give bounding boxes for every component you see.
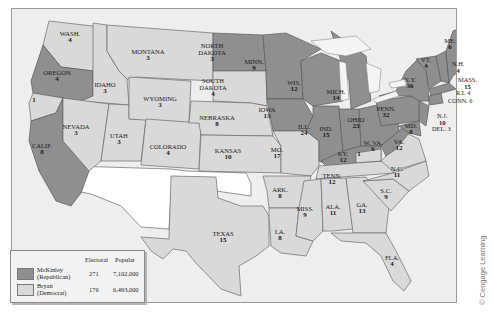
label-nj: N.J.10 — [437, 112, 447, 126]
label-penn: PENN.32 — [377, 105, 396, 119]
legend-popular-value: 6,493,000 — [113, 286, 139, 293]
copyright-credit: © Cengage Learning — [478, 236, 487, 305]
legend-row-bryan: Bryan(Democrat) 176 6,493,000 — [17, 283, 142, 296]
legend-candidate: McKinley(Republican) — [37, 267, 70, 280]
label-wyoming: WYOMING3 — [143, 95, 176, 109]
legend-electoral-value: 271 — [89, 270, 99, 277]
label-ohio: OHIO23 — [348, 116, 364, 130]
label-ri: R.I. 4 — [456, 89, 470, 96]
label-colorado: COLORADO4 — [150, 143, 187, 157]
label-wash: WASH.4 — [60, 30, 80, 44]
label-north-dakota: NORTHDAKOTA3 — [198, 42, 225, 63]
label-nc: N.C.11 — [391, 165, 403, 179]
label-ala: ALA.11 — [325, 203, 340, 217]
label-calif: CALIF.8 — [32, 142, 52, 156]
label-ind: IND.15 — [319, 125, 332, 139]
label-nebraska: NEBRASKA8 — [199, 114, 235, 128]
label-md: MD.8 — [405, 122, 417, 136]
legend-swatch-republican — [17, 268, 34, 280]
legend-header-electoral: Electoral — [85, 256, 108, 263]
label-wis: WIS.12 — [287, 79, 301, 93]
label-kansas: KANSAS10 — [215, 147, 241, 161]
label-mass: MASS.15 — [458, 76, 477, 90]
state-nj — [419, 101, 429, 126]
label-ky-split: 1 — [357, 151, 361, 158]
label-montana: MONTANA3 — [131, 48, 164, 62]
label-mo: MO.17 — [271, 146, 283, 160]
label-del: DEL. 3 — [432, 125, 451, 132]
legend: Electoral Popular McKinley(Republican) 2… — [10, 250, 145, 303]
legend-popular-value: 7,102,000 — [113, 270, 139, 277]
label-va: VA.12 — [394, 138, 404, 152]
label-oregon: OREGON4 — [43, 69, 70, 83]
legend-row-mckinley: McKinley(Republican) 271 7,102,000 — [17, 267, 142, 280]
label-vt: VT.4 — [421, 56, 431, 70]
label-wva: W. VA.6 — [363, 139, 382, 153]
label-calif-split: 1 — [32, 97, 36, 104]
label-ark: ARK.8 — [272, 186, 288, 200]
label-nh: N.H.4 — [452, 60, 464, 74]
label-la: LA.8 — [275, 228, 285, 242]
label-miss: MISS.9 — [296, 205, 313, 219]
label-fla: FLA.4 — [385, 254, 399, 268]
label-me: ME.6 — [444, 37, 456, 51]
label-ill: ILL.24 — [298, 123, 310, 137]
label-iowa: IOWA13 — [258, 106, 275, 120]
label-ga: GA.13 — [356, 201, 367, 215]
label-nevada: NEVADA3 — [63, 123, 90, 137]
legend-candidate: Bryan(Democrat) — [37, 283, 66, 296]
label-ky: KY.12 — [338, 150, 348, 164]
label-minn: MINN.9 — [244, 58, 263, 72]
label-mich: MICH.14 — [327, 88, 346, 102]
label-texas: TEXAS15 — [212, 230, 233, 244]
legend-header-popular: Popular — [115, 256, 135, 263]
label-ny: N.Y.36 — [404, 76, 416, 90]
label-tenn: TENN.12 — [322, 172, 341, 186]
legend-swatch-democrat — [17, 284, 34, 296]
legend-electoral-value: 176 — [89, 286, 99, 293]
label-conn: CONN. 6 — [448, 97, 473, 104]
label-south-dakota: SOUTHDAKOTA4 — [199, 77, 226, 98]
label-utah: UTAH3 — [110, 132, 128, 146]
label-sc: S.C.9 — [380, 187, 391, 201]
label-idaho: IDAHO3 — [94, 81, 115, 95]
